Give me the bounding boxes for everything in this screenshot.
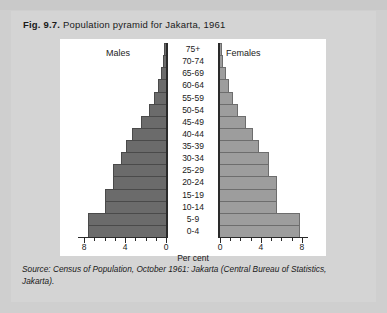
females-bar xyxy=(220,164,269,176)
males-bar xyxy=(113,164,166,176)
age-group-label: 25-29 xyxy=(168,164,218,176)
axis-tick xyxy=(105,237,106,241)
axis-tick-label: 4 xyxy=(123,242,128,252)
axis-tick xyxy=(240,237,241,241)
females-bar xyxy=(220,67,226,79)
females-bar xyxy=(220,189,277,201)
axis-tick-label: 0 xyxy=(218,242,223,252)
source-line-1: Source: Census of Population, October 19… xyxy=(22,264,326,274)
females-bars-panel xyxy=(218,43,308,237)
axis-tick xyxy=(115,237,116,241)
bar-row xyxy=(78,128,168,140)
bar-row xyxy=(218,140,308,152)
bar-row xyxy=(78,140,168,152)
figure-source: Source: Census of Population, October 19… xyxy=(22,264,377,287)
females-bar xyxy=(220,116,246,128)
females-bar xyxy=(220,201,277,213)
bar-row xyxy=(78,104,168,116)
females-bar xyxy=(220,176,277,188)
bar-row xyxy=(78,189,168,201)
axis-tick xyxy=(292,237,293,241)
males-bar xyxy=(149,104,166,116)
age-group-label: 55-59 xyxy=(168,92,218,104)
females-bar xyxy=(220,225,300,237)
bar-row xyxy=(218,164,308,176)
bar-row xyxy=(78,55,168,67)
age-group-label: 0-4 xyxy=(168,225,218,237)
axis-tick-label: 8 xyxy=(82,242,87,252)
bar-row xyxy=(218,152,308,164)
axis-tick xyxy=(94,237,95,241)
bar-row xyxy=(218,128,308,140)
chart-plot-area: Males Females 75+70-7465-6960-6455-5950-… xyxy=(60,39,326,256)
bar-row xyxy=(78,79,168,91)
females-bar xyxy=(220,152,269,164)
males-bar xyxy=(154,92,166,104)
source-line-2: Jakarta). xyxy=(22,276,377,288)
bar-row xyxy=(78,176,168,188)
females-bar xyxy=(220,128,253,140)
age-group-label: 15-19 xyxy=(168,189,218,201)
females-bar xyxy=(220,213,300,225)
females-bar xyxy=(220,55,223,67)
bar-row xyxy=(78,43,168,55)
bar-row xyxy=(218,201,308,213)
figure-caption: Fig. 9.7. Population pyramid for Jakarta… xyxy=(23,19,225,30)
axis-tick xyxy=(230,237,231,241)
females-bar xyxy=(220,79,229,91)
bar-row xyxy=(218,67,308,79)
males-bar xyxy=(105,201,166,213)
axis-tick xyxy=(146,237,147,241)
bar-row xyxy=(78,152,168,164)
axis-tick xyxy=(156,237,157,241)
females-x-axis xyxy=(218,237,308,238)
bar-row xyxy=(218,92,308,104)
age-group-label: 65-69 xyxy=(168,67,218,79)
bar-row xyxy=(78,201,168,213)
bar-row xyxy=(218,189,308,201)
axis-tick xyxy=(251,237,252,241)
females-bar xyxy=(220,104,238,116)
age-group-label: 35-39 xyxy=(168,140,218,152)
age-group-label: 50-54 xyxy=(168,104,218,116)
population-pyramid-chart: Males Females 75+70-7465-6960-6455-5950-… xyxy=(60,39,326,256)
bar-row xyxy=(218,55,308,67)
axis-tick-label: 8 xyxy=(299,242,304,252)
page-corner-mark xyxy=(376,0,383,7)
bar-row xyxy=(218,79,308,91)
males-bar xyxy=(105,189,166,201)
bar-row xyxy=(78,213,168,225)
figure-title-text: Population pyramid for Jakarta, 1961 xyxy=(63,19,225,30)
age-group-label: 30-34 xyxy=(168,152,218,164)
males-bars-panel xyxy=(78,43,168,237)
age-group-label: 10-14 xyxy=(168,201,218,213)
bar-row xyxy=(78,225,168,237)
males-bar xyxy=(88,225,166,237)
males-bar xyxy=(158,79,166,91)
bar-row xyxy=(78,164,168,176)
bar-row xyxy=(218,104,308,116)
males-bar xyxy=(88,213,166,225)
age-group-label: 60-64 xyxy=(168,79,218,91)
males-bar xyxy=(113,176,166,188)
males-bar xyxy=(164,43,166,55)
age-group-label: 40-44 xyxy=(168,128,218,140)
females-bar xyxy=(220,92,233,104)
males-bar xyxy=(132,128,166,140)
axis-tick xyxy=(135,237,136,241)
figure-panel: Fig. 9.7. Population pyramid for Jakarta… xyxy=(11,11,376,302)
axis-tick-label: 4 xyxy=(259,242,264,252)
age-group-label: 5-9 xyxy=(168,213,218,225)
axis-tick xyxy=(271,237,272,241)
bar-row xyxy=(218,176,308,188)
bar-row xyxy=(78,67,168,79)
age-group-label: 70-74 xyxy=(168,55,218,67)
males-bar xyxy=(161,67,166,79)
age-group-label: 45-49 xyxy=(168,116,218,128)
females-bar xyxy=(220,43,222,55)
bar-row xyxy=(78,92,168,104)
age-group-label: 75+ xyxy=(168,43,218,55)
axis-tick xyxy=(281,237,282,241)
males-bar xyxy=(163,55,166,67)
males-x-axis xyxy=(78,237,168,238)
